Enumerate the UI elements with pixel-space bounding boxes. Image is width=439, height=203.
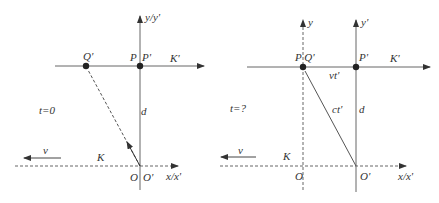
left-time-label: t=0 bbox=[39, 104, 55, 116]
right-point-pprime-dot bbox=[353, 64, 359, 70]
relativity-diagram: y/y' P P' K' Q' d t=0 v K O O' x/x' y y'… bbox=[0, 0, 439, 203]
right-time-label: t=? bbox=[230, 102, 246, 114]
right-o-label: O bbox=[295, 170, 303, 182]
left-pprime-label: P' bbox=[141, 51, 152, 63]
left-panel: y/y' P P' K' Q' d t=0 v K O O' x/x' bbox=[15, 11, 204, 190]
right-panel: y y' P Q' P' K' vt' ct' d t=? v K O O' x… bbox=[220, 16, 430, 192]
left-y-axis-label: y/y' bbox=[144, 11, 161, 23]
left-d-label: d bbox=[141, 105, 147, 117]
left-o-label: O bbox=[130, 171, 138, 183]
left-point-qprime-dot bbox=[83, 63, 89, 69]
right-vt-label: vt' bbox=[329, 69, 340, 81]
right-d-label: d bbox=[359, 103, 365, 115]
right-point-pq-dot bbox=[300, 64, 306, 70]
right-y-axis-label: y bbox=[307, 16, 313, 28]
left-light-arrow bbox=[127, 142, 140, 166]
right-x-axis-label: x/x' bbox=[397, 170, 414, 182]
right-pq-label: P Q' bbox=[294, 51, 315, 63]
left-qprime-label: Q' bbox=[83, 50, 94, 62]
right-yprime-axis-label: y' bbox=[360, 16, 369, 28]
left-k-label: K bbox=[96, 151, 105, 163]
right-oprime-label: O' bbox=[360, 170, 371, 182]
right-v-label: v bbox=[238, 144, 243, 156]
right-light-path bbox=[305, 71, 356, 166]
left-p-label: P bbox=[129, 51, 137, 63]
left-kprime-label: K' bbox=[169, 52, 180, 64]
right-ct-label: ct' bbox=[332, 103, 343, 115]
left-point-pp-dot bbox=[137, 63, 143, 69]
right-k-label: K bbox=[282, 150, 291, 162]
left-oprime-label: O' bbox=[143, 171, 154, 183]
right-kprime-label: K' bbox=[389, 52, 400, 64]
left-v-label: v bbox=[43, 144, 48, 156]
left-x-axis-label: x/x' bbox=[165, 170, 182, 182]
right-pprime-label: P' bbox=[358, 51, 369, 63]
